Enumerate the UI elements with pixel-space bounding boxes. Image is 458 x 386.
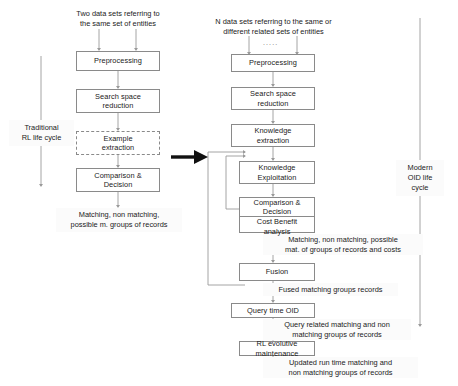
right-annotation-matching-costs: Matching, non matching, possible mat. of… [263,234,423,255]
right-header-line-2: different related sets of entities [196,27,351,37]
left-node-cd-line-2: Decision [104,180,133,189]
right-node-ssr-line-1: Search space [250,89,296,98]
right-node-fusion[interactable]: Fusion [239,263,315,281]
left-node-preprocessing-label: Preprocessing [94,56,142,65]
left-node-example-extraction[interactable]: Example extraction [76,131,160,155]
right-annot-matching-line-2: mat. of groups of records and costs [285,245,401,255]
right-node-cdc-line-4: analysis [264,227,291,236]
right-column-header: N data sets referring to the same or dif… [196,17,351,37]
right-node-kx-line-1: Knowledge [258,163,295,172]
right-node-preprocessing[interactable]: Preprocessing [231,54,315,72]
modern-lifecycle-line-3: cycle [412,183,429,193]
traditional-lifecycle-line-1: Traditional [24,123,58,133]
right-header-line-1: N data sets referring to the same or [196,17,351,27]
right-node-ssr-line-2: reduction [258,99,289,108]
left-node-ee-line-2: extraction [102,143,135,152]
transition-arrow-icon [170,146,210,168]
right-node-search-space-reduction[interactable]: Search space reduction [231,87,315,110]
right-node-comparison-decision-cell[interactable]: Comparison & Decision [240,198,314,216]
right-node-cdc-line-1: Comparison & [254,198,301,207]
left-node-ssr-line-2: reduction [103,101,134,110]
right-node-comparison-decision-cost[interactable]: Comparison & Decision Cost Benefit analy… [239,197,315,233]
right-node-cdc-line-2: Decision [263,207,291,216]
left-node-cd-line-1: Comparison & [94,171,141,180]
traditional-rl-lifecycle-label: Traditional RL life cycle [9,120,74,146]
right-annot-query-line-1: Query related matching and non [284,320,390,330]
left-output-line-2: possible m. groups of records [71,220,168,230]
flowchart-diagram: Two data sets referring to the same set … [0,0,458,386]
left-header-line-1: Two data sets referring to [58,9,178,19]
input-ellipsis: ..... [263,39,278,46]
right-node-cost-benefit-analysis-cell[interactable]: Cost Benefit analysis [240,216,314,235]
right-node-ke-line-2: extraction [257,136,290,145]
left-node-preprocessing[interactable]: Preprocessing [76,51,160,71]
right-node-rlem-line-2: maintenance [256,349,299,358]
left-column-header: Two data sets referring to the same set … [58,9,178,29]
right-node-preprocessing-label: Preprocessing [249,58,297,67]
left-node-ee-line-1: Example [103,134,132,143]
right-node-knowledge-extraction[interactable]: Knowledge extraction [231,124,315,147]
right-node-fusion-label: Fusion [266,267,288,276]
right-node-ke-line-1: Knowledge [254,126,291,135]
right-annot-updated-line-1: Updated run time matching and [289,358,392,368]
right-node-rlem-line-1: RL evolutive [257,339,298,348]
right-annot-query-line-2: matching groups of records [292,330,382,340]
right-node-cdc-line-3: Cost Benefit [257,217,297,226]
right-node-kx-line-2: Exploitation [258,173,297,182]
right-node-knowledge-exploitation[interactable]: Knowledge Exploitation [239,161,315,184]
right-node-query-time-oid[interactable]: Query time OID [231,303,315,318]
right-node-qoid-label: Query time OID [247,306,299,315]
right-annotation-fused-groups: Fused matching groups records [263,283,398,296]
modern-oid-lifecycle-label: Modern OID life cycle [396,160,444,196]
left-output-line-1: Matching, non matching, [79,210,160,220]
left-output-annotation: Matching, non matching, possible m. grou… [56,208,182,232]
left-header-line-2: the same set of entities [58,19,178,29]
left-node-ssr-line-1: Search space [95,92,141,101]
right-annotation-updated-runtime: Updated run time matching and non matchi… [263,357,418,378]
right-annotation-query-related: Query related matching and non matching … [263,319,411,340]
right-annot-matching-line-1: Matching, non matching, possible [288,235,398,245]
right-node-rl-evolutive-maintenance[interactable]: RL evolutive maintenance [239,341,315,356]
modern-lifecycle-line-2: OID life [408,173,433,183]
left-node-comparison-decision[interactable]: Comparison & Decision [76,168,160,192]
right-annot-updated-line-2: non matching groups of records [289,368,393,378]
right-annot-fused-line-1: Fused matching groups records [279,285,383,295]
traditional-lifecycle-line-2: RL life cycle [22,133,62,143]
modern-lifecycle-line-1: Modern [407,163,432,173]
left-node-search-space-reduction[interactable]: Search space reduction [76,89,160,113]
